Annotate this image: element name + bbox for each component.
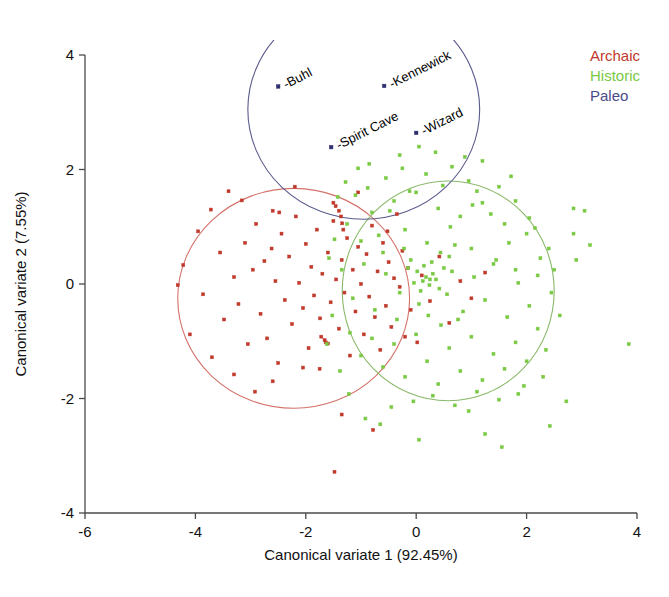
data-point-historic xyxy=(544,348,547,351)
data-point-archaic xyxy=(307,347,310,350)
data-point-archaic xyxy=(342,228,345,231)
data-point-archaic xyxy=(332,220,335,223)
data-point-historic xyxy=(536,327,539,330)
data-point-archaic xyxy=(332,201,335,204)
data-point-historic xyxy=(340,268,343,271)
data-point-historic xyxy=(395,318,398,321)
data-point-paleo xyxy=(414,131,418,135)
data-point-archaic xyxy=(376,270,379,273)
data-point-historic xyxy=(627,343,630,346)
x-tick-label: 0 xyxy=(412,523,420,540)
data-point-historic xyxy=(473,276,476,279)
data-point-archaic xyxy=(283,299,286,302)
data-point-archaic xyxy=(390,325,393,328)
data-point-historic xyxy=(481,159,484,162)
data-point-archaic xyxy=(315,228,318,231)
data-point-historic xyxy=(382,366,385,369)
data-point-historic xyxy=(398,154,401,157)
data-point-archaic xyxy=(182,264,185,267)
data-point-archaic xyxy=(202,293,205,296)
data-point-historic xyxy=(346,222,349,225)
data-point-historic xyxy=(351,297,354,300)
data-point-historic xyxy=(446,293,449,296)
point-label-group: -Wizard xyxy=(419,104,466,138)
data-point-historic xyxy=(417,438,420,441)
data-point-historic xyxy=(390,406,393,409)
data-point-paleo xyxy=(276,85,280,89)
data-point-historic xyxy=(463,155,466,158)
data-point-archaic xyxy=(337,327,340,330)
point-label-wizard: -Wizard xyxy=(419,104,466,138)
data-point-historic xyxy=(517,392,520,395)
point-label-spirit-cave: -Spirit Cave xyxy=(334,108,401,152)
data-point-archaic xyxy=(484,271,487,274)
data-point-archaic xyxy=(176,284,179,287)
data-point-paleo xyxy=(382,84,386,88)
data-point-archaic xyxy=(365,253,368,256)
data-point-historic xyxy=(426,360,429,363)
data-point-historic xyxy=(430,261,433,264)
data-point-historic xyxy=(388,209,391,212)
data-point-historic xyxy=(550,291,553,294)
data-point-archaic xyxy=(346,237,349,240)
data-point-historic xyxy=(553,268,556,271)
data-point-archaic xyxy=(323,339,326,342)
data-point-archaic xyxy=(233,276,236,279)
data-point-archaic xyxy=(368,295,371,298)
data-point-historic xyxy=(542,375,545,378)
data-point-historic xyxy=(462,310,465,313)
data-point-historic xyxy=(467,410,470,413)
data-point-archaic xyxy=(304,242,307,245)
data-point-historic xyxy=(565,400,568,403)
data-point-historic xyxy=(441,184,444,187)
data-point-historic xyxy=(467,179,470,182)
x-tick-label: -4 xyxy=(189,523,202,540)
data-point-historic xyxy=(366,186,369,189)
data-point-historic xyxy=(575,258,578,261)
data-point-historic xyxy=(373,308,376,311)
data-point-historic xyxy=(421,280,424,283)
point-label-group: -Spirit Cave xyxy=(334,108,401,152)
data-point-historic xyxy=(426,241,429,244)
data-point-archaic xyxy=(293,185,296,188)
data-point-archaic xyxy=(335,278,338,281)
data-point-historic xyxy=(327,257,330,260)
data-point-historic xyxy=(438,287,441,290)
data-point-archaic xyxy=(362,333,365,336)
data-point-historic xyxy=(500,446,503,449)
data-point-archaic xyxy=(329,301,332,304)
data-point-historic xyxy=(357,167,360,170)
data-point-historic xyxy=(528,217,531,220)
data-point-archaic xyxy=(351,268,354,271)
data-point-archaic xyxy=(371,224,374,227)
data-point-archaic xyxy=(343,291,346,294)
x-axis-title: Canonical variate 1 (92.45%) xyxy=(264,546,457,563)
data-point-historic xyxy=(471,203,474,206)
data-point-historic xyxy=(364,417,367,420)
data-point-historic xyxy=(484,299,487,302)
data-point-archaic xyxy=(438,255,441,258)
Paleo-ellipse xyxy=(248,0,480,219)
data-point-archaic xyxy=(334,205,337,208)
data-point-historic xyxy=(470,247,473,250)
data-point-historic xyxy=(415,191,418,194)
data-point-archaic xyxy=(302,366,305,369)
data-point-historic xyxy=(498,185,501,188)
data-point-historic xyxy=(514,341,517,344)
data-point-archaic xyxy=(379,348,382,351)
data-point-historic xyxy=(336,195,339,198)
data-point-historic xyxy=(442,266,445,269)
data-point-archaic xyxy=(197,230,200,233)
data-point-archaic xyxy=(357,191,360,194)
x-tick-label: -2 xyxy=(299,523,312,540)
data-point-archaic xyxy=(251,268,254,271)
data-point-historic xyxy=(475,390,478,393)
data-point-historic xyxy=(331,314,334,317)
data-point-historic xyxy=(417,303,420,306)
data-point-historic xyxy=(498,398,501,401)
data-point-historic xyxy=(539,257,542,260)
data-point-archaic xyxy=(348,354,351,357)
data-point-historic xyxy=(514,199,517,202)
legend-item-archaic: Archaic xyxy=(590,46,640,66)
data-point-historic xyxy=(457,318,460,321)
